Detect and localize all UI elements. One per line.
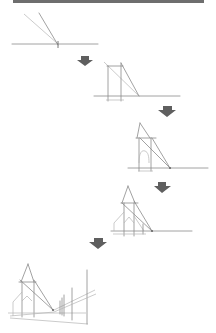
step-2-sketch xyxy=(94,62,180,101)
down-arrow-icon xyxy=(89,238,107,249)
step-5-sketch xyxy=(8,264,96,324)
step-4-sketch xyxy=(111,186,192,236)
down-arrow-icon xyxy=(158,106,176,117)
step-3-sketch xyxy=(128,123,208,171)
step-1-sketch xyxy=(12,13,98,48)
down-arrow-icon xyxy=(154,182,171,193)
down-arrow-icon xyxy=(77,56,93,66)
perspective-sketch-diagram xyxy=(0,0,216,333)
